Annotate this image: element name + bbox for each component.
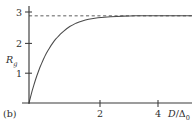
y-axis-label-main: R xyxy=(5,54,13,65)
x-axis-label: D/Δ0 xyxy=(167,108,190,122)
x-tick-label-2: 2 xyxy=(97,108,103,119)
y-axis-label: Rg xyxy=(5,54,17,68)
data-curve-rg xyxy=(29,16,192,103)
y-tick-label-1: 1 xyxy=(16,68,22,79)
y-tick-label-2: 2 xyxy=(16,38,22,49)
x-axis-label-denominator-subscript: 0 xyxy=(186,114,190,122)
x-tick-label-4: 4 xyxy=(155,108,161,119)
y-tick-label-3: 3 xyxy=(16,7,22,18)
y-axis-label-subscript: g xyxy=(13,60,17,68)
panel-label: (b) xyxy=(3,108,17,119)
plot-canvas: 3 2 1 2 4 Rg D/Δ0 (b) xyxy=(0,0,194,127)
figure-panel-b: 3 2 1 2 4 Rg D/Δ0 (b) xyxy=(0,0,194,127)
